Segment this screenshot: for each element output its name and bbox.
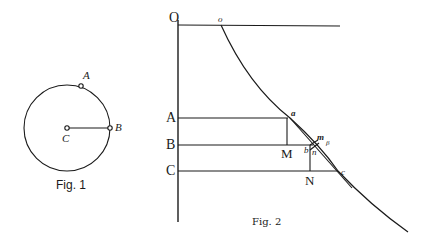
label-o-point: o — [218, 15, 223, 24]
tangent-line — [290, 118, 352, 188]
diagram-svg — [0, 0, 427, 248]
label-b-axis: B — [166, 138, 175, 152]
curve — [221, 25, 408, 232]
label-b-point: b — [304, 146, 309, 155]
top-horizontal-line — [178, 25, 340, 26]
label-m: M — [281, 147, 293, 160]
point-b — [108, 126, 112, 130]
label-m-point: m — [317, 133, 324, 142]
label-c-axis: C — [166, 164, 175, 178]
label-n: N — [305, 174, 314, 187]
figure1-caption: Fig. 1 — [56, 179, 86, 191]
label-p-point: β — [326, 140, 330, 147]
figure2-caption: Fig. 2 — [252, 217, 281, 227]
label-b: B — [115, 122, 122, 133]
label-c: C — [62, 133, 69, 144]
point-c — [65, 126, 69, 130]
label-c-point: c — [341, 168, 345, 177]
label-a-axis: A — [166, 111, 176, 125]
label-a: A — [83, 70, 90, 81]
label-a-point: a — [291, 109, 296, 118]
label-n-point: n — [312, 148, 317, 157]
label-o-axis: O — [169, 11, 179, 25]
point-a — [79, 84, 83, 88]
figure-canvas: A B C Fig. 1 O o A B C M N a b c m n β F… — [0, 0, 427, 248]
